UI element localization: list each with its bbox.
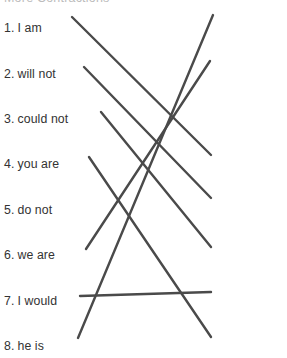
full-forms-column: 1.I am2.will not3.could not4.you are5.do… — [0, 0, 120, 358]
full-form-item-marker: 5. — [4, 203, 14, 217]
full-form-item-8[interactable]: 8.he is — [4, 340, 44, 352]
full-form-item-label: he is — [17, 339, 43, 353]
full-form-item-1[interactable]: 1.I am — [4, 22, 42, 34]
full-form-item-label: will not — [17, 67, 55, 81]
contractions-column: A.we’reB.he’sC.don’tD.won’tE.couldn’tF.I… — [212, 0, 287, 358]
full-form-item-label: could not — [17, 112, 68, 126]
full-form-item-marker: 8. — [4, 339, 14, 353]
full-form-item-label: we are — [17, 248, 55, 262]
full-form-item-6[interactable]: 6.we are — [4, 249, 55, 261]
full-form-item-marker: 3. — [4, 112, 14, 126]
full-form-item-7[interactable]: 7.I would — [4, 295, 57, 307]
full-form-item-marker: 4. — [4, 157, 14, 171]
full-form-item-marker: 2. — [4, 67, 14, 81]
full-form-item-2[interactable]: 2.will not — [4, 68, 56, 80]
full-form-item-label: you are — [17, 157, 59, 171]
full-form-item-5[interactable]: 5.do not — [4, 204, 52, 216]
full-form-item-label: I would — [17, 294, 57, 308]
full-form-item-label: do not — [17, 203, 52, 217]
full-form-item-label: I am — [17, 21, 41, 35]
full-form-item-marker: 6. — [4, 248, 14, 262]
full-form-item-marker: 7. — [4, 294, 14, 308]
full-form-item-marker: 1. — [4, 21, 14, 35]
matching-worksheet: More Contractions 1.I am2.will not3.coul… — [0, 0, 287, 358]
full-form-item-4[interactable]: 4.you are — [4, 158, 59, 170]
full-form-item-3[interactable]: 3.could not — [4, 113, 68, 125]
